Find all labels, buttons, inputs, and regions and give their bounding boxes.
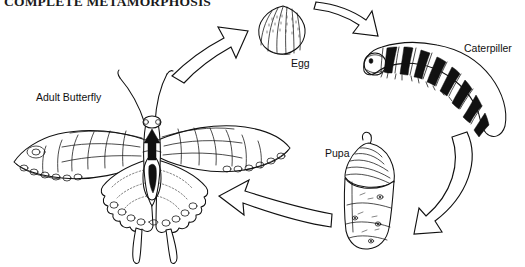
butterfly-body: [143, 116, 161, 206]
stage-label-adult-butterfly: Adult Butterfly: [36, 91, 102, 103]
arrow-pupa-to-butterfly: [219, 180, 332, 227]
metamorphosis-diagram: COMPLETE METAMORPHOSIS: [0, 0, 525, 267]
diagram-title-text: COMPLETE METAMORPHOSIS: [4, 0, 211, 9]
arrow-egg-to-caterpillar: [314, 2, 378, 36]
stage-label-pupa: Pupa: [325, 147, 350, 159]
chrysalis-icon: [344, 132, 394, 249]
caterpillar-icon: [364, 43, 506, 137]
butterfly-egg-icon: [259, 6, 305, 55]
diagram-canvas: COMPLETE METAMORPHOSIS: [0, 0, 525, 267]
diagram-title: COMPLETE METAMORPHOSIS: [4, 0, 211, 9]
arrow-butterfly-to-egg: [172, 27, 248, 83]
stage-label-egg: Egg: [291, 57, 310, 69]
stage-label-caterpillar: Caterpiller: [464, 42, 512, 54]
butterfly-antennae: [118, 70, 173, 124]
arrow-caterpillar-to-pupa: [414, 132, 472, 234]
